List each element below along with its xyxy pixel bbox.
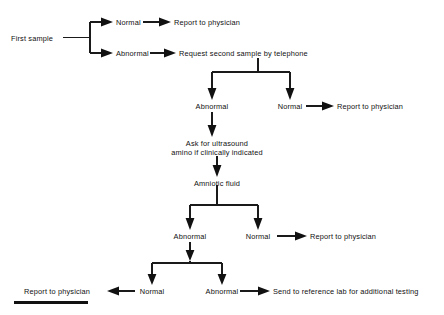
node-branch3-abnormal: Abnormal (174, 232, 207, 241)
node-branch1-abnormal: Abnormal (116, 49, 149, 58)
arrowhead-level4-stem (186, 250, 195, 261)
flowchart-connectors (0, 0, 444, 315)
arrowhead-reference-lab (258, 287, 270, 296)
node-amniotic-fluid: Amniotic fluid (194, 179, 240, 188)
arrowhead-report-3 (295, 232, 307, 241)
arrowhead-normal-2 (286, 88, 295, 100)
node-branch3-normal: Normal (246, 232, 271, 241)
node-branch4-abnormal-action: Send to reference lab for additional tes… (273, 287, 418, 296)
arrowhead-abnormal-1 (101, 49, 113, 58)
arrowhead-abnormal-4 (218, 274, 227, 285)
arrowhead-request-second (164, 49, 176, 58)
arrowhead-report-1 (159, 18, 171, 27)
node-branch2-normal-action: Report to physician (337, 102, 403, 111)
node-branch2-abnormal: Abnormal (196, 102, 229, 111)
node-branch4-normal: Normal (140, 287, 165, 296)
arrowhead-report-4 (107, 287, 119, 296)
arrowhead-normal-4 (148, 274, 157, 285)
node-first-sample: First sample (11, 34, 53, 43)
arrowhead-abnormal-2 (208, 88, 217, 100)
node-ultrasound-line1: Ask for ultrasound (171, 139, 262, 148)
arrowhead-amniotic (213, 165, 222, 177)
node-ultrasound-line2: amino if clinically indicated (171, 148, 262, 157)
node-branch2-normal: Normal (278, 102, 303, 111)
node-branch3-normal-action: Report to physician (310, 232, 376, 241)
arrowhead-normal-1 (101, 18, 113, 27)
flowchart-canvas: First sample Normal Report to physician … (0, 0, 444, 315)
node-branch1-normal-action: Report to physician (174, 18, 240, 27)
arrowhead-normal-3 (254, 218, 263, 230)
node-branch1-normal: Normal (116, 18, 141, 27)
footer-rule (14, 301, 88, 304)
node-ultrasound: Ask for ultrasound amino if clinically i… (171, 139, 262, 157)
node-branch4-normal-action: Report to physician (24, 287, 90, 296)
arrowhead-ultrasound (208, 125, 217, 137)
node-branch4-abnormal: Abnormal (206, 287, 239, 296)
node-branch1-abnormal-action: Request second sample by telephone (179, 49, 308, 58)
arrowhead-report-2 (322, 102, 334, 111)
arrowhead-abnormal-3 (186, 218, 195, 230)
